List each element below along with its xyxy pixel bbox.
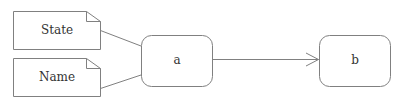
connector-state-to-a (101, 31, 142, 47)
diagram-canvas: State Name a b (0, 0, 413, 109)
note-name-label: Name (14, 70, 100, 84)
note-state-label: State (14, 23, 100, 37)
state-b-label: b (320, 53, 390, 67)
connector-name-to-a (101, 75, 142, 89)
state-a-label: a (142, 53, 212, 67)
